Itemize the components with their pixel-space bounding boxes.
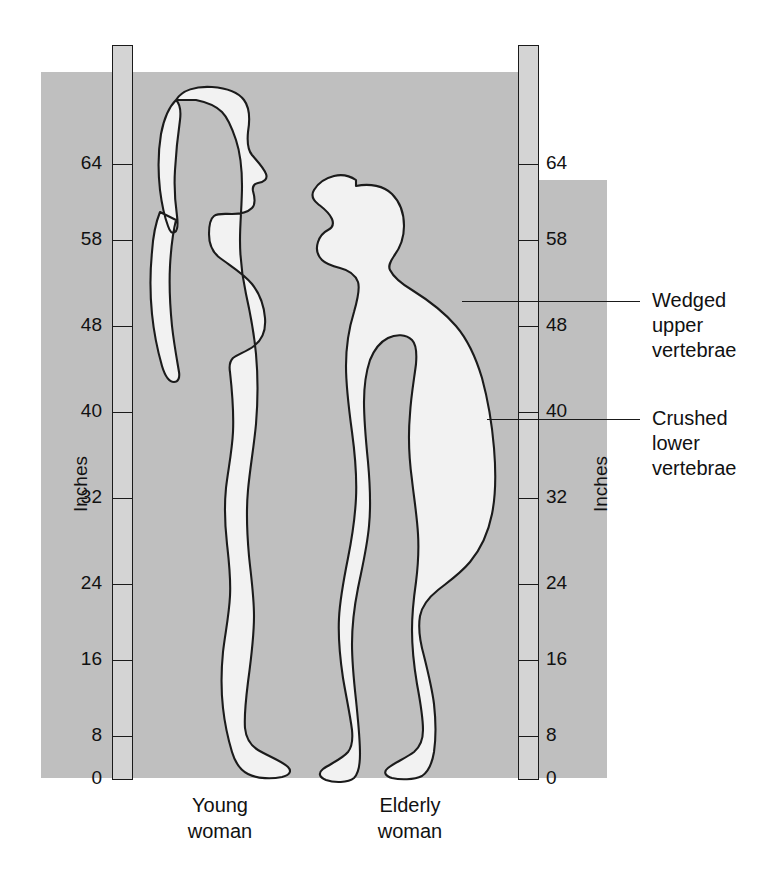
tick-right-64: [519, 164, 538, 165]
tick-label-right-40: 40: [546, 401, 567, 420]
tick-label-right-24: 24: [546, 573, 567, 592]
tick-right-48: [519, 326, 538, 327]
tick-label-left-48: 48: [62, 315, 102, 334]
tick-left-40: [113, 412, 132, 413]
ruler-left: [112, 45, 133, 780]
annotation-wedged-upper-vertebrae: Wedged upper vertebrae: [652, 288, 772, 363]
tick-label-right-64: 64: [546, 153, 567, 172]
tick-left-8: [113, 736, 132, 737]
tick-right-24: [519, 584, 538, 585]
young-woman-silhouette: [151, 87, 291, 778]
tick-label-left-0: 0: [62, 768, 102, 787]
tick-label-left-64: 64: [62, 153, 102, 172]
tick-left-58: [113, 240, 132, 241]
tick-left-24: [113, 584, 132, 585]
tick-right-16: [519, 660, 538, 661]
height-comparison-figure: 64 58 48 40 32 24 16 8 0 Inches 64 58 48…: [0, 0, 775, 876]
tick-label-right-58: 58: [546, 229, 567, 248]
tick-label-right-32: 32: [546, 487, 567, 506]
tick-label-left-58: 58: [62, 229, 102, 248]
tick-left-32: [113, 498, 132, 499]
tick-label-right-16: 16: [546, 649, 567, 668]
axis-title-right: Inches: [590, 456, 612, 512]
ruler-right: [518, 45, 539, 780]
tick-label-left-8: 8: [62, 725, 102, 744]
leader-line-crushed: [487, 419, 640, 420]
tick-label-left-40: 40: [62, 401, 102, 420]
tick-right-32: [519, 498, 538, 499]
tick-left-64: [113, 164, 132, 165]
tick-label-left-16: 16: [62, 649, 102, 668]
tick-left-16: [113, 660, 132, 661]
leader-line-wedged: [462, 301, 640, 302]
tick-left-48: [113, 326, 132, 327]
tick-label-right-8: 8: [546, 725, 557, 744]
axis-title-left: Inches: [70, 456, 92, 512]
elderly-woman-silhouette: [313, 175, 496, 782]
tick-right-40: [519, 412, 538, 413]
tick-label-left-24: 24: [62, 573, 102, 592]
tick-right-8: [519, 736, 538, 737]
annotation-crushed-lower-vertebrae: Crushed lower vertebrae: [652, 406, 772, 481]
tick-label-right-0: 0: [546, 768, 557, 787]
caption-young-woman: Young woman: [140, 792, 300, 844]
tick-label-right-48: 48: [546, 315, 567, 334]
caption-elderly-woman: Elderly woman: [330, 792, 490, 844]
tick-right-58: [519, 240, 538, 241]
